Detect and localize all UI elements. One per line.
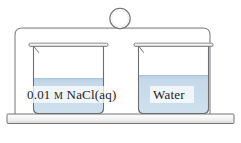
lid-knob-ring[interactable] [110, 8, 130, 28]
beaker-right [134, 43, 213, 115]
support-platform [7, 114, 234, 124]
beaker-right-cover-plate-body [134, 43, 213, 46]
beaker-left [29, 43, 108, 115]
beaker-right-label: Water [153, 88, 185, 101]
lid-knob[interactable] [110, 8, 130, 28]
figure-container: 0.01 M NaCl(aq) Water [0, 0, 241, 143]
apparatus-diagram [0, 0, 241, 143]
beaker-right-liquid-surface [137, 75, 210, 76]
beaker-left-liquid-surface [32, 78, 105, 79]
beaker-left-cover-plate-body [29, 43, 108, 46]
beaker-left-cover-plate [29, 43, 108, 46]
nacl-label-molarity-symbol: M [54, 90, 63, 101]
nacl-label-suffix: NaCl(aq) [63, 87, 116, 102]
beaker-left-label: 0.01 M NaCl(aq) [27, 88, 117, 101]
nacl-label-prefix: 0.01 [27, 87, 54, 102]
beaker-right-cover-plate [134, 43, 213, 46]
